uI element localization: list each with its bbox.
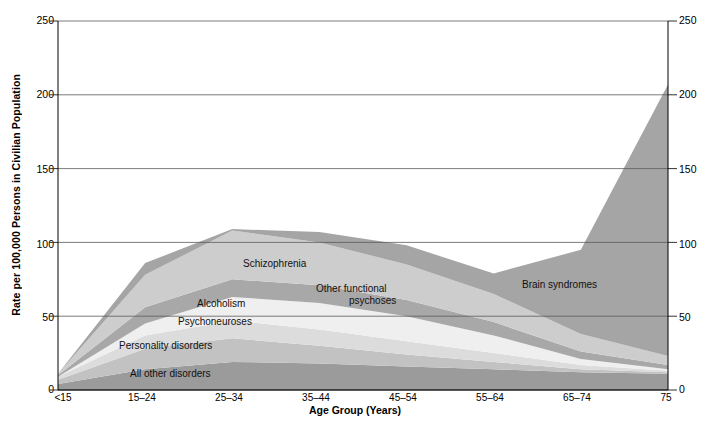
x-tick-65-74: 65–74	[552, 392, 602, 403]
x-axis-title: Age Group (Years)	[0, 404, 710, 416]
series-label-brain-syndromes: Brain syndromes	[522, 279, 597, 290]
x-tick-15-24: 15–24	[117, 392, 167, 403]
x-tick-45-54: 45–54	[378, 392, 428, 403]
series-label-personality-disorders: Personality disorders	[119, 340, 212, 351]
series-label-alcoholism: Alcoholism	[197, 298, 245, 309]
x-tick-75: 75	[652, 392, 680, 403]
x-tick-under15: <15	[43, 392, 83, 403]
series-label-all-other-disorders: All other disorders	[130, 368, 211, 379]
x-tick-35-44: 35–44	[291, 392, 341, 403]
x-tick-25-34: 25–34	[204, 392, 254, 403]
series-label-other-functional-psychoses-line1: Other functional	[316, 283, 387, 294]
series-label-psychoneuroses: Psychoneuroses	[178, 316, 252, 327]
series-label-other-functional-psychoses-line2: psychoses	[349, 295, 396, 306]
series-label-schizophrenia: Schizophrenia	[243, 258, 306, 269]
stacked-area-chart: Rate per 100,000 Persons in Civilian Pop…	[0, 0, 710, 431]
x-tick-55-64: 55–64	[465, 392, 515, 403]
plot-area	[0, 0, 710, 431]
